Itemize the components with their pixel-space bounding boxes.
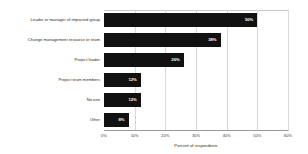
x-tick-label: 30%	[192, 133, 200, 138]
category-label: Leader or manager of impacted group	[0, 10, 100, 30]
bar-value-label: 38%	[104, 33, 217, 47]
bar-row: Project team members12%	[0, 70, 308, 90]
category-label: No one	[0, 90, 100, 110]
category-label: Other	[0, 110, 100, 130]
bar-row: Project leader26%	[0, 50, 308, 70]
bar-value-label: 8%	[104, 113, 125, 127]
x-tick-label: 60%	[284, 133, 292, 138]
x-tick-label: 0%	[101, 133, 107, 138]
x-axis-title: Percent of respondents	[104, 143, 288, 148]
bar-row: Other8%	[0, 110, 308, 130]
x-tick-label: 20%	[161, 133, 169, 138]
x-tick-label: 50%	[253, 133, 261, 138]
bar-row: No one12%	[0, 90, 308, 110]
bar-row: Change management resource or team38%	[0, 30, 308, 50]
x-tick-label: 40%	[223, 133, 231, 138]
bar-row: Leader or manager of impacted group50%	[0, 10, 308, 30]
x-tick-label: 10%	[131, 133, 139, 138]
bar-value-label: 26%	[104, 53, 180, 67]
category-label: Project team members	[0, 70, 100, 90]
category-label: Project leader	[0, 50, 100, 70]
bar-value-label: 12%	[104, 93, 137, 107]
category-label: Change management resource or team	[0, 30, 100, 50]
bar-value-label: 12%	[104, 73, 137, 87]
bar-value-label: 50%	[104, 13, 253, 27]
x-axis-line	[104, 130, 288, 131]
bar-chart: Leader or manager of impacted group50%Ch…	[0, 0, 308, 154]
